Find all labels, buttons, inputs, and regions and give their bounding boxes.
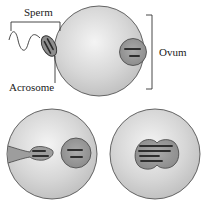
acrosome-label: Acrosome [9,82,54,93]
sperm-bracket [11,22,60,31]
ovum-label: Ovum [159,47,187,58]
diagram-canvas [0,0,206,208]
sperm-label: Sperm [24,7,53,18]
female-pronucleus [61,138,91,168]
fertilization-diagram: Sperm Acrosome Ovum [0,0,206,208]
panel-fusion [110,109,200,199]
panel-penetration [7,109,97,199]
ovum-nucleus [120,39,147,66]
sperm-tail [9,32,40,50]
fused-pronuclei [135,140,179,170]
